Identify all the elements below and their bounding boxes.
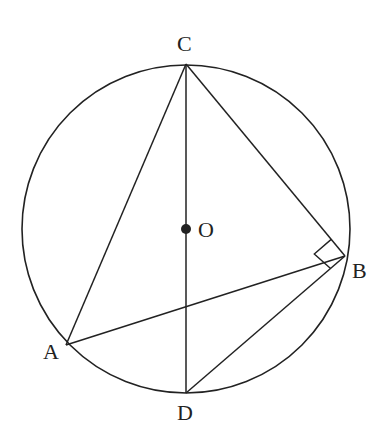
label-c: C [177,31,192,56]
segment-ca [66,64,186,345]
label-d: D [177,400,193,425]
segment-ab [66,256,345,345]
label-b: B [352,258,367,283]
geometry-diagram: C O B A D [0,0,387,438]
label-o: O [198,217,214,242]
center-point-o [181,224,191,234]
label-a: A [43,339,59,364]
right-angle-marker [314,239,331,268]
